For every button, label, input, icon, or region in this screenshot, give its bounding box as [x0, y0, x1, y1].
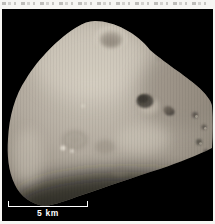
cropped-caption-strip: [0, 0, 215, 9]
screenshot-stage: 5 km: [0, 0, 215, 224]
illegible-text-sliver: [2, 2, 211, 5]
moon-image: [2, 9, 213, 221]
scale-bar: [8, 201, 88, 207]
moon-photograph: 5 km: [2, 9, 213, 221]
scale-bar-label: 5 km: [8, 208, 88, 219]
